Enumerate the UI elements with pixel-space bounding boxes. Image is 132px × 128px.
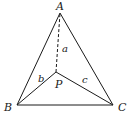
segment-label-c: c	[82, 74, 88, 85]
vertex-label-B: B	[3, 101, 12, 114]
vertex-label-A: A	[55, 0, 64, 13]
edge-CA	[60, 13, 113, 105]
triangle-diagram: A B C P a b c	[0, 0, 132, 128]
vertex-label-C: C	[118, 101, 127, 114]
segment-label-b: b	[38, 73, 44, 84]
point-label-P: P	[54, 78, 63, 91]
edge-AB	[17, 13, 60, 105]
edge-PA-dashed	[56, 13, 60, 72]
segment-label-a: a	[62, 43, 68, 54]
edge-PB	[17, 72, 56, 105]
